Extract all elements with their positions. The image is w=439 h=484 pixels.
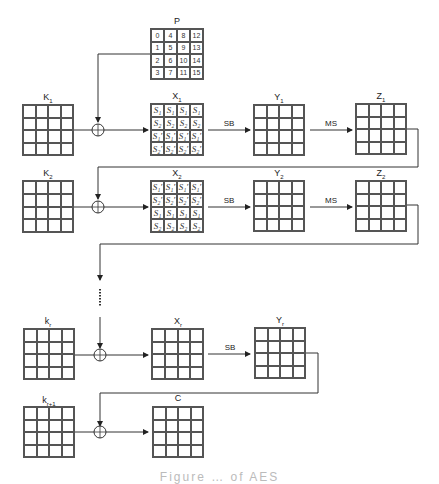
matrix-cell: 0 [151, 29, 164, 42]
sbox-cell: S₁′ [164, 130, 177, 143]
y-matrix-r [254, 327, 306, 379]
matrix-cell: 11 [177, 67, 190, 80]
z-matrix-1 [355, 103, 407, 155]
matrix-cell: 10 [177, 54, 190, 67]
op-subbytes-1: SB [209, 119, 249, 128]
sbox-cell: S₁′ [190, 130, 203, 143]
sbox-cell: S₂ [177, 117, 190, 130]
matrix-cell: 7 [164, 67, 177, 80]
matrix-cell: 2 [151, 54, 164, 67]
sbox-cell: S₁ [151, 104, 164, 117]
key-matrix-1 [22, 104, 74, 156]
sbox-cell: S₁ [177, 207, 190, 220]
sbox-cell: S₁′ [151, 181, 164, 194]
sbox-cell: S₂ [177, 219, 190, 232]
matrix-cell: 14 [190, 54, 203, 67]
sbox-cell: S₁′ [177, 181, 190, 194]
matrix-cell: 9 [177, 42, 190, 55]
matrix-cell: 12 [190, 29, 203, 42]
ciphertext-matrix [152, 406, 204, 458]
sbox-cell: S₂′ [164, 142, 177, 155]
key-matrix-r [23, 328, 75, 380]
sbox-cell: S₁ [164, 104, 177, 117]
sbox-cell: S₁′ [164, 181, 177, 194]
sbox-cell: S₂ [151, 219, 164, 232]
sbox-cell: S₁′ [177, 130, 190, 143]
sbox-cell: S₂′ [151, 142, 164, 155]
op-subbytes-2: SB [209, 196, 249, 205]
matrix-cell: 8 [177, 29, 190, 42]
key-matrix-r1 [23, 406, 75, 458]
sbox-cell: S₂′ [190, 142, 203, 155]
sbox-cell: S₂′ [164, 194, 177, 207]
ellipsis-dots [99, 289, 101, 306]
matrix-cell: 13 [190, 42, 203, 55]
plaintext-label: P [147, 16, 207, 26]
ciphertext-label: C [148, 393, 208, 403]
z-matrix-2 [355, 180, 407, 232]
sbox-cell: S₁ [177, 104, 190, 117]
figure-caption: Figure … of AES [0, 470, 439, 484]
sbox-cell: S₂ [190, 219, 203, 232]
state-matrix-2: S₁′ S₁′ S₁′ S₁′ S₂′ S₂′ S₂′ S₂′ S₁ S₁ S₁… [150, 180, 204, 233]
matrix-cell: 6 [164, 54, 177, 67]
op-mixshift-1: MS [311, 119, 351, 128]
sbox-cell: S₂′ [177, 194, 190, 207]
sbox-cell: S₁ [164, 207, 177, 220]
op-mixshift-2: MS [311, 196, 351, 205]
plaintext-matrix: 0 4 8 12 1 5 9 13 2 6 10 14 3 7 11 15 [150, 28, 204, 80]
matrix-cell: 1 [151, 42, 164, 55]
sbox-cell: S₁ [190, 207, 203, 220]
key-matrix-2 [22, 180, 74, 233]
sbox-cell: S₂′ [190, 194, 203, 207]
sbox-cell: S₂′ [151, 194, 164, 207]
sbox-cell: S₁′ [190, 181, 203, 194]
sbox-cell: S₂ [151, 117, 164, 130]
sbox-cell: S₂ [190, 117, 203, 130]
state-matrix-1: S₁ S₁ S₁ S₁ S₂ S₂ S₂ S₂ S₁′ S₁′ S₁′ S₁′ … [150, 103, 204, 156]
y-matrix-1 [253, 104, 305, 156]
sbox-cell: S₂′ [177, 142, 190, 155]
sbox-cell: S₂ [164, 219, 177, 232]
op-subbytes-r: SB [210, 343, 250, 352]
sbox-cell: S₂ [164, 117, 177, 130]
matrix-cell: 5 [164, 42, 177, 55]
sbox-cell: S₁′ [151, 130, 164, 143]
state-matrix-r [151, 328, 204, 380]
sbox-cell: S₁ [151, 207, 164, 220]
y-matrix-2 [253, 180, 305, 232]
matrix-cell: 3 [151, 67, 164, 80]
matrix-cell: 15 [190, 67, 203, 80]
matrix-cell: 4 [164, 29, 177, 42]
sbox-cell: S₁ [190, 104, 203, 117]
